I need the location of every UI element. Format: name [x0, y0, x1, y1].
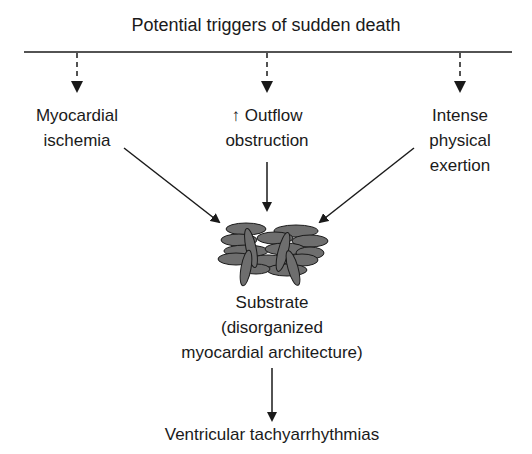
substrate-line: Substrate — [142, 290, 402, 315]
substrate-line: myocardial architecture) — [142, 340, 402, 365]
trigger-label-line: ↑ Outflow — [207, 103, 327, 128]
trigger-label-line: ischemia — [17, 128, 137, 153]
trigger-outflow-obstruction: ↑ Outflow obstruction — [207, 103, 327, 153]
trigger-myocardial-ischemia: Myocardial ischemia — [17, 103, 137, 153]
dashed-arrows — [77, 53, 460, 80]
myocyte-cluster-icon — [218, 223, 328, 287]
arrow-exertion — [320, 148, 414, 222]
trigger-label-line: physical — [410, 128, 510, 153]
trigger-label-line: Intense — [410, 103, 510, 128]
trigger-label-line: exertion — [410, 153, 510, 178]
diagram-graphics — [0, 0, 532, 454]
arrow-ischemia — [124, 148, 219, 222]
trigger-label-line: obstruction — [207, 128, 327, 153]
trigger-intense-physical-exertion: Intense physical exertion — [410, 103, 510, 178]
outcome-label: Ventricular tachyarrhythmias — [122, 422, 422, 447]
diagram-title: Potential triggers of sudden death — [0, 13, 532, 38]
dashed-arrowheads — [71, 81, 466, 93]
trigger-label-line: Myocardial — [17, 103, 137, 128]
substrate-label: Substrate (disorganized myocardial archi… — [142, 290, 402, 365]
substrate-line: (disorganized — [142, 315, 402, 340]
